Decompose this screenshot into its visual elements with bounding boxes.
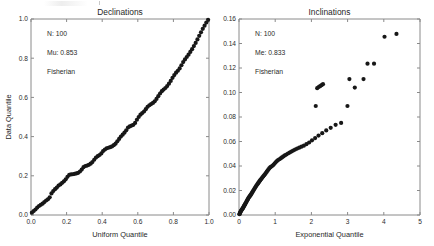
x-tick-label: 3 bbox=[346, 218, 350, 225]
panel-title: Declinations bbox=[97, 7, 143, 17]
x-axis-title: Uniform Quantile bbox=[92, 230, 147, 239]
y-tick-label: 0.10 bbox=[223, 89, 236, 96]
annotation-text: Fisherian bbox=[255, 68, 283, 75]
x-tick-label: 2 bbox=[310, 218, 314, 225]
y-tick-label: 0.0 bbox=[19, 211, 28, 218]
y-tick-label: 0.00 bbox=[223, 211, 236, 218]
panel-inclinations: 0123450.000.020.040.060.080.100.120.140.… bbox=[217, 0, 434, 246]
annotation-text: Fisherian bbox=[47, 68, 75, 75]
y-tick-label: 0.14 bbox=[223, 40, 236, 47]
annotation-text: N: 100 bbox=[47, 30, 67, 37]
x-tick-label: 0.2 bbox=[62, 218, 71, 225]
data-point bbox=[353, 86, 357, 90]
x-tick-label: 0 bbox=[237, 218, 241, 225]
x-tick-label: 0.8 bbox=[169, 218, 178, 225]
x-tick-label: 5 bbox=[418, 218, 422, 225]
data-point bbox=[361, 77, 365, 81]
y-tick-label: 0.2 bbox=[19, 172, 28, 179]
x-tick-label: 0.0 bbox=[26, 218, 35, 225]
data-point bbox=[320, 131, 324, 135]
data-point bbox=[48, 195, 52, 199]
data-point bbox=[365, 62, 369, 66]
data-point-group bbox=[237, 32, 398, 217]
y-tick-label: 0.04 bbox=[223, 162, 236, 169]
x-axis-title: Exponential Quantile bbox=[295, 230, 363, 239]
inclinations-plot-svg: 0123450.000.020.040.060.080.100.120.140.… bbox=[217, 0, 434, 246]
data-point bbox=[339, 121, 343, 125]
data-point bbox=[334, 123, 338, 127]
data-point bbox=[345, 104, 349, 108]
y-tick-label: 0.6 bbox=[19, 94, 28, 101]
x-tick-label: 1 bbox=[273, 218, 277, 225]
x-tick-label: 0.4 bbox=[98, 218, 107, 225]
data-point bbox=[206, 18, 210, 22]
y-tick-label: 0.16 bbox=[223, 15, 236, 22]
declinations-plot-svg: 0.00.20.40.60.81.00.00.20.40.60.81.0Decl… bbox=[0, 0, 217, 246]
annotation-text: Me: 0.833 bbox=[255, 49, 285, 56]
data-point bbox=[382, 35, 386, 39]
data-point bbox=[316, 134, 320, 138]
annotation-text: Mu: 0.853 bbox=[47, 49, 77, 56]
data-point bbox=[313, 136, 317, 140]
y-tick-label: 0.4 bbox=[19, 133, 28, 140]
data-point bbox=[321, 82, 325, 86]
data-point-group bbox=[30, 18, 210, 215]
data-point bbox=[372, 62, 376, 66]
annotation-text: N: 100 bbox=[255, 30, 275, 37]
data-point bbox=[329, 126, 333, 130]
panel-declinations: 0.00.20.40.60.81.00.00.20.40.60.81.0Decl… bbox=[0, 0, 217, 246]
y-axis-title: Data Quantile bbox=[4, 94, 13, 139]
y-tick-label: 0.02 bbox=[223, 187, 236, 194]
y-tick-label: 0.8 bbox=[19, 55, 28, 62]
data-point bbox=[314, 104, 318, 108]
panel-title: Inclinations bbox=[309, 7, 351, 17]
x-tick-label: 1.0 bbox=[204, 218, 213, 225]
y-tick-label: 0.12 bbox=[223, 64, 236, 71]
qq-plot-figure: 0.00.20.40.60.81.00.00.20.40.60.81.0Decl… bbox=[0, 0, 434, 246]
data-point bbox=[347, 77, 351, 81]
x-tick-label: 0.6 bbox=[133, 218, 142, 225]
x-tick-label: 4 bbox=[382, 218, 386, 225]
data-point bbox=[394, 32, 398, 36]
y-tick-label: 1.0 bbox=[19, 15, 28, 22]
y-tick-label: 0.08 bbox=[223, 113, 236, 120]
data-point bbox=[324, 128, 328, 132]
y-tick-label: 0.06 bbox=[223, 138, 236, 145]
